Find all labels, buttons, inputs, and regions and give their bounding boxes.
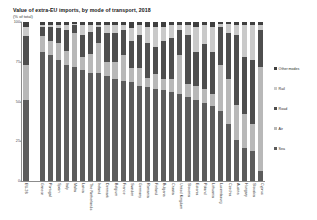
bar-column xyxy=(64,22,69,181)
bar-segment-sea xyxy=(202,103,207,181)
legend-item-other[interactable]: Other modes xyxy=(274,64,316,73)
bar-stack[interactable] xyxy=(111,22,119,181)
bar-stack[interactable] xyxy=(176,22,184,181)
bar-segment-air xyxy=(72,33,77,66)
x-axis-label-slot: Ireland xyxy=(94,183,102,219)
bar-segment-air xyxy=(242,114,247,147)
bar-segment-road xyxy=(242,57,247,114)
bar-column xyxy=(185,22,190,181)
bar-stack[interactable] xyxy=(208,22,216,181)
x-axis-label: Lithuania xyxy=(210,183,214,198)
bar-segment-road xyxy=(40,27,45,37)
bar-stack[interactable] xyxy=(38,22,46,181)
bar-segment-road xyxy=(185,35,190,84)
bar-segment-sea xyxy=(153,89,158,181)
bar-segment-air xyxy=(104,62,109,76)
bar-segment-air xyxy=(202,89,207,103)
bar-stack[interactable] xyxy=(119,22,127,181)
x-axis-label-slot: Bulgaria xyxy=(159,183,167,219)
bar-segment-air xyxy=(48,41,53,55)
x-axis-label: Poland xyxy=(202,183,206,194)
bar-segment-rail xyxy=(129,28,134,41)
legend-swatch-road xyxy=(274,107,277,110)
bar-stack[interactable] xyxy=(200,22,208,181)
bar-stack[interactable] xyxy=(152,22,160,181)
bar-column xyxy=(177,22,182,181)
x-axis-label: Germany xyxy=(137,183,141,198)
bar-segment-sea xyxy=(88,73,93,181)
bar-column xyxy=(137,22,142,181)
bar-stack[interactable] xyxy=(257,22,265,181)
bar-stack[interactable] xyxy=(87,22,95,181)
legend-item-sea[interactable]: Sea xyxy=(274,144,316,153)
bar-segment-road xyxy=(210,52,215,93)
bar-stack[interactable] xyxy=(62,22,70,181)
x-axis-label: Bulgaria xyxy=(162,183,166,197)
bar-stack[interactable] xyxy=(71,22,79,181)
bar-segment-road xyxy=(23,36,28,65)
x-axis-label-slot: Sweden xyxy=(127,183,135,219)
bar-segment-rail xyxy=(193,27,198,52)
chart-title: Value of extra-EU imports, by mode of tr… xyxy=(13,7,151,13)
bar-stack[interactable] xyxy=(127,22,135,181)
x-axis-label-slot: Cyprus xyxy=(257,183,265,219)
bar-segment-road xyxy=(121,30,126,55)
legend-item-air[interactable]: Air xyxy=(274,124,316,133)
bar-stack[interactable] xyxy=(184,22,192,181)
x-axis-label-slot: Belgium xyxy=(111,183,119,219)
bar-segment-air xyxy=(88,54,93,73)
bar-segment-air xyxy=(64,51,69,65)
x-axis-label-slot: Greece xyxy=(37,183,45,219)
bar-segment-sea xyxy=(218,111,223,181)
bar-stack[interactable] xyxy=(54,22,62,181)
bar-stack[interactable] xyxy=(135,22,143,181)
x-axis-label: Ireland xyxy=(96,183,100,194)
bar-column xyxy=(88,22,93,181)
bar-segment-road xyxy=(137,35,142,68)
bar-segment-road xyxy=(72,25,77,33)
legend-label: Rail xyxy=(279,87,285,91)
bar-segment-sea xyxy=(161,90,166,181)
bar-stack[interactable] xyxy=(192,22,200,181)
bar-stack[interactable] xyxy=(224,22,232,181)
bar-segment-road xyxy=(177,30,182,55)
bar-segment-air xyxy=(56,43,61,60)
bar-stack[interactable] xyxy=(232,22,240,181)
x-axis-label-slot: Slovakia xyxy=(249,183,257,219)
x-axis-label-slot: Hungary xyxy=(241,183,249,219)
bar-stack[interactable] xyxy=(46,22,54,181)
bar-stack[interactable] xyxy=(168,22,176,181)
x-axis-label-slot xyxy=(29,183,37,219)
x-axis-label: Czechia xyxy=(227,183,231,196)
bar-stack[interactable] xyxy=(249,22,257,181)
bar-segment-road xyxy=(153,47,158,74)
bar-stack[interactable] xyxy=(22,22,30,181)
bar-segment-sea xyxy=(250,151,255,181)
x-axis-label: EU-28 xyxy=(23,183,27,193)
x-axis-label-slot: Slovenia xyxy=(184,183,192,219)
x-axis-label-slot: Spain xyxy=(54,183,62,219)
bar-stack[interactable] xyxy=(103,22,111,181)
x-axis-label: Austria xyxy=(235,183,239,194)
x-axis-label: Finland xyxy=(153,183,157,195)
x-axis-label-slot: Austria xyxy=(233,183,241,219)
legend-item-rail[interactable]: Rail xyxy=(274,84,316,93)
x-axis-label: Slovakia xyxy=(251,183,255,197)
x-axis-label-slot: Finland xyxy=(151,183,159,219)
bar-segment-sea xyxy=(137,86,142,181)
bar-segment-sea xyxy=(40,52,45,181)
bar-column xyxy=(112,22,117,181)
chart-subtitle: (% of total) xyxy=(13,14,33,19)
bar-stack[interactable] xyxy=(143,22,151,181)
bar-column xyxy=(23,22,28,181)
bar-column xyxy=(96,22,101,181)
plot-area: 1007550250 xyxy=(21,22,265,182)
legend-item-road[interactable]: Road xyxy=(274,104,316,113)
bar-segment-road xyxy=(56,28,61,42)
bar-stack[interactable] xyxy=(241,22,249,181)
x-axis-label-slot: Czechia xyxy=(225,183,233,219)
bar-stack[interactable] xyxy=(95,22,103,181)
bar-stack[interactable] xyxy=(160,22,168,181)
bar-stack[interactable] xyxy=(79,22,87,181)
bar-stack[interactable] xyxy=(216,22,224,181)
